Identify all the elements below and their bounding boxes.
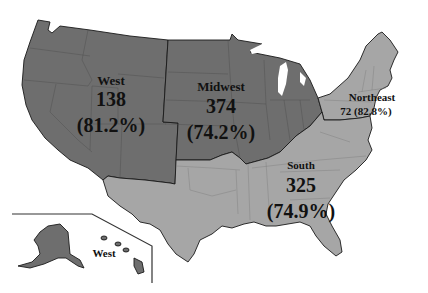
inset-border — [12, 214, 152, 283]
west-count: 138 — [78, 89, 144, 109]
alaska-shape — [18, 224, 84, 268]
midwest-label: Midwest — [190, 80, 252, 93]
south-label: South — [276, 160, 326, 171]
west-label: West — [86, 74, 136, 87]
inset-west-label: West — [84, 248, 124, 259]
midwest-count: 374 — [186, 96, 256, 116]
northeast-label: Northeast — [342, 92, 402, 103]
us-regions-map — [0, 0, 428, 293]
west-percent: (81.2%) — [60, 115, 162, 135]
northeast-count-percent: 72 (82.8%) — [330, 106, 402, 117]
midwest-percent: (74.2%) — [168, 122, 274, 142]
south-percent: (74.9%) — [248, 201, 354, 221]
south-count: 325 — [266, 175, 336, 195]
